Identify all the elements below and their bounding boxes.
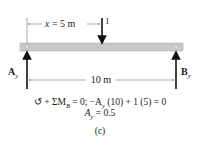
unit-load-label: 1 — [105, 17, 110, 26]
influence-line-diagram: x = 5 m 1 Ay By 10 m ↺ + ΣMB = 0; −Ay (1… — [0, 0, 200, 147]
beam — [20, 43, 183, 51]
span-dimension-label: 10 m — [91, 75, 111, 85]
reaction-a-label: Ay — [8, 67, 18, 80]
reaction-result: Ay = 0.5 — [85, 109, 116, 120]
x-dimension-label: x = 5 m — [45, 19, 75, 29]
figure-caption: (c) — [95, 127, 106, 137]
reaction-b-label: By — [181, 67, 191, 80]
